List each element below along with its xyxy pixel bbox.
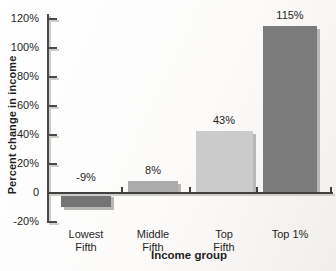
bar-4 (263, 26, 317, 193)
y-axis-tick (48, 105, 57, 107)
bar-1 (61, 194, 111, 207)
bar-value-label: 43% (194, 114, 254, 126)
y-tick-label: 0 (0, 186, 39, 198)
bar-3 (196, 131, 253, 193)
bar-value-label: 115% (260, 9, 320, 21)
bar-value-label: 8% (123, 164, 183, 176)
y-tick-label: 40% (0, 128, 39, 140)
y-tick-label: 20% (0, 157, 39, 169)
y-tick-label: -20% (0, 215, 39, 227)
x-axis-title: Income group (89, 249, 289, 261)
category-tick (121, 187, 123, 193)
category-tick (189, 187, 191, 193)
y-axis-tick (48, 76, 57, 78)
y-axis-tick (48, 47, 57, 49)
y-tick-label: 100% (0, 41, 39, 53)
y-axis-tick (48, 221, 57, 223)
category-tick (330, 187, 332, 193)
category-label: Top 1% (254, 228, 326, 241)
y-axis-tick (48, 134, 57, 136)
y-axis-tick (48, 18, 57, 20)
y-tick-label: 120% (0, 12, 39, 24)
y-axis-tick (48, 163, 57, 165)
category-tick (256, 187, 258, 193)
bar-value-label: -9% (56, 171, 116, 183)
bar-chart-figure: Percent change in income 120%100%80%60%4… (0, 0, 336, 271)
y-tick-label: 80% (0, 70, 39, 82)
y-tick-label: 60% (0, 99, 39, 111)
